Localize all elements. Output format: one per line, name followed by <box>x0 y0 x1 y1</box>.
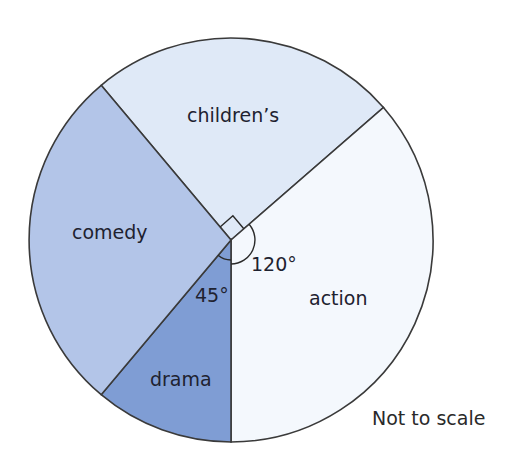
angle-label-action: 120° <box>251 253 297 275</box>
angle-label-drama: 45° <box>195 284 229 306</box>
label-childrens: children’s <box>187 104 279 126</box>
pie-chart: children’s comedy action drama 120° 45° … <box>0 0 522 473</box>
label-drama: drama <box>150 368 212 390</box>
label-comedy: comedy <box>72 221 148 243</box>
not-to-scale-note: Not to scale <box>372 407 485 429</box>
label-action: action <box>309 287 367 309</box>
